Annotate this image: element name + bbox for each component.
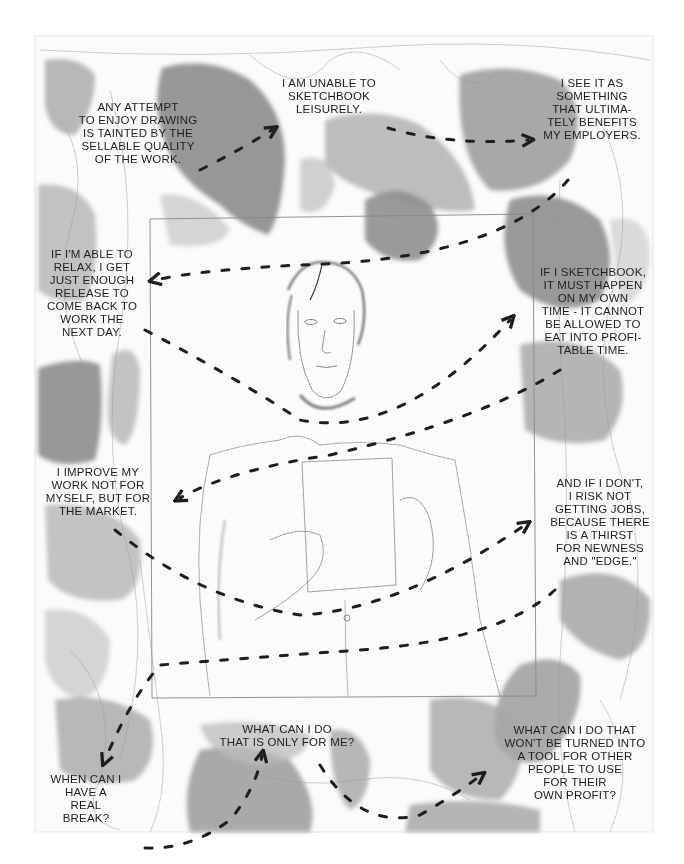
caption-c10: WHEN CAN I HAVE A REAL BREAK? [40, 773, 132, 825]
caption-c1: ANY ATTEMPT TO ENJOY DRAWING IS TAINTED … [52, 101, 224, 166]
caption-c4: IF I'M ABLE TO RELAX, I GET JUST ENOUGH … [36, 248, 148, 339]
caption-c6: I IMPROVE MY WORK NOT FOR MYSELF, BUT FO… [36, 466, 160, 518]
caption-c5: IF I SKETCHBOOK, IT MUST HAPPEN ON MY OW… [528, 266, 658, 357]
caption-c8: WHAT CAN I DO THAT IS ONLY FOR ME? [212, 723, 362, 749]
caption-c9: WHAT CAN I DO THAT WON'T BE TURNED INTO … [490, 724, 660, 802]
caption-c2: I AM UNABLE TO SKETCHBOOK LEISURELY. [270, 77, 388, 116]
caption-c3: I SEE IT AS SOMETHING THAT ULTIMA- TELY … [530, 77, 654, 142]
caption-c7: AND IF I DON'T, I RISK NOT GETTING JOBS,… [540, 477, 660, 568]
